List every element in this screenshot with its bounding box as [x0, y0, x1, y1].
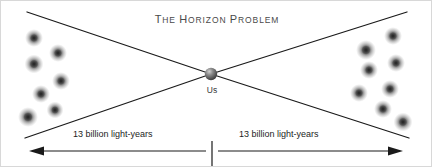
- title-rest-the: HE: [162, 15, 179, 25]
- galaxy-blob: [49, 44, 67, 62]
- horizon-problem-figure: THE HORIZON PROBLEM Us 13 billion light-…: [0, 0, 432, 167]
- title-rest-horizon: ORIZON: [188, 15, 230, 25]
- galaxy-blob: [356, 40, 376, 60]
- galaxy-cluster-right: [350, 27, 413, 132]
- galaxy-blob: [25, 55, 44, 74]
- galaxy-blob: [384, 27, 402, 45]
- galaxy-blob: [52, 72, 70, 90]
- arrowhead-right: [388, 147, 403, 156]
- galaxy-blob: [18, 107, 38, 127]
- observer-sphere: [205, 68, 217, 80]
- galaxy-blob: [360, 61, 378, 79]
- arrowhead-left: [29, 147, 44, 156]
- galaxy-blob: [374, 100, 392, 118]
- title-cap-p: P: [230, 13, 238, 25]
- distance-label-right: 13 billion light-years: [239, 129, 319, 140]
- galaxy-blob: [47, 102, 64, 119]
- figure-title: THE HORIZON PROBLEM: [1, 14, 432, 26]
- galaxy-blob: [394, 113, 413, 132]
- title-rest-problem: ROBLEM: [238, 15, 279, 25]
- galaxy-blob: [381, 80, 399, 98]
- galaxy-cluster-left: [18, 29, 70, 127]
- galaxy-blob: [350, 84, 368, 102]
- galaxy-blob: [25, 29, 43, 47]
- galaxy-blob: [387, 54, 405, 72]
- galaxy-blob: [32, 85, 50, 103]
- scale-bar: [37, 141, 395, 167]
- title-cap-h: H: [179, 13, 188, 25]
- observer-label: Us: [197, 85, 227, 95]
- distance-label-left: 13 billion light-years: [73, 129, 153, 140]
